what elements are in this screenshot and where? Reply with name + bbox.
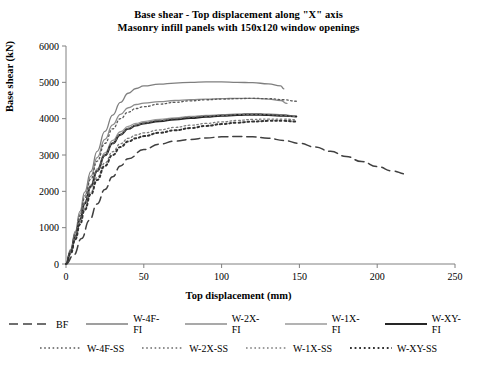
x-axis-title: Top displacement (mm) (0, 290, 477, 301)
y-tick-label: 1000 (39, 222, 59, 233)
legend-item-label: W-2X-SS (189, 343, 228, 354)
series-line-W-2X-FI (66, 98, 287, 264)
legend-line-icon (185, 319, 227, 329)
legend-item-label: W-XY-FI (432, 313, 468, 335)
x-tick-label: 150 (292, 271, 307, 282)
legend-line-icon (86, 319, 128, 329)
legend-line-icon (246, 343, 288, 353)
legend-line-icon (40, 343, 82, 353)
legend-item-W-4F-FI[interactable]: W-4F-FI (86, 313, 166, 335)
series-line-W-2X-SS (66, 114, 296, 264)
x-tick-label: 200 (370, 271, 385, 282)
series-line-BF (66, 136, 405, 264)
plot-area: 0100020003000400050006000050100150200250 (0, 36, 477, 291)
legend-item-W-2X-SS[interactable]: W-2X-SS (142, 343, 228, 354)
legend-line-icon (385, 319, 427, 329)
series-line-W-4F-SS (66, 98, 296, 264)
chart-title-line1: Base shear - Top displacement along "X" … (0, 8, 477, 21)
y-tick-label: 3000 (39, 150, 59, 161)
y-tick-label: 5000 (39, 77, 59, 88)
chart-legend: BFW-4F-FIW-2X-FIW-1X-FIW-XY-FI W-4F-SSW-… (0, 312, 477, 360)
legend-item-W-1X-SS[interactable]: W-1X-SS (246, 343, 332, 354)
legend-line-icon (142, 343, 184, 353)
chart-figure: Base shear - Top displacement along "X" … (0, 0, 477, 377)
x-tick-label: 250 (448, 271, 463, 282)
series-line-W-1X-FI (66, 114, 296, 264)
legend-line-icon (350, 343, 392, 353)
y-tick-label: 2000 (39, 186, 59, 197)
legend-item-BF[interactable]: BF (9, 319, 68, 330)
x-tick-label: 0 (64, 271, 69, 282)
legend-line-icon (9, 319, 51, 329)
legend-item-label: W-1X-SS (293, 343, 332, 354)
x-tick-label: 50 (139, 271, 149, 282)
legend-item-label: W-4F-SS (87, 343, 124, 354)
y-tick-label: 0 (54, 259, 59, 270)
legend-item-W-1X-FI[interactable]: W-1X-FI (285, 313, 367, 335)
legend-item-label: BF (56, 319, 68, 330)
legend-item-label: W-1X-FI (332, 313, 367, 335)
legend-item-W-2X-FI[interactable]: W-2X-FI (185, 313, 267, 335)
legend-item-W-XY-SS[interactable]: W-XY-SS (350, 343, 437, 354)
legend-item-label: W-4F-FI (133, 313, 166, 335)
legend-item-W-4F-SS[interactable]: W-4F-SS (40, 343, 124, 354)
series-line-W-4F-FI (66, 82, 284, 264)
y-tick-label: 6000 (39, 41, 59, 52)
legend-item-label: W-XY-SS (397, 343, 437, 354)
legend-row-1: BFW-4F-FIW-2X-FIW-1X-FIW-XY-FI (0, 312, 477, 336)
legend-item-W-XY-FI[interactable]: W-XY-FI (385, 313, 468, 335)
chart-title-line2: Masonry infill panels with 150x120 windo… (0, 21, 477, 34)
chart-title: Base shear - Top displacement along "X" … (0, 8, 477, 34)
y-tick-label: 4000 (39, 113, 59, 124)
legend-row-2: W-4F-SSW-2X-SSW-1X-SSW-XY-SS (0, 336, 477, 360)
x-tick-label: 100 (214, 271, 229, 282)
legend-item-label: W-2X-FI (232, 313, 267, 335)
legend-line-icon (285, 319, 327, 329)
